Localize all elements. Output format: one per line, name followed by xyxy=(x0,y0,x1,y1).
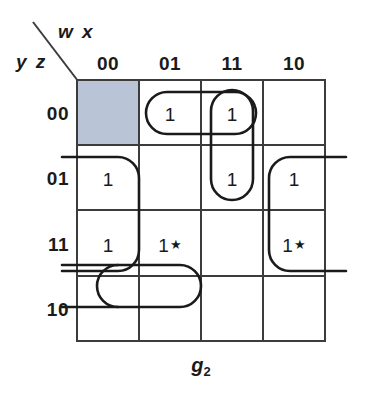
axis-label-top-variables: w x xyxy=(58,22,95,41)
column-header-00: 00 xyxy=(77,54,139,73)
function-label-subscript: 2 xyxy=(203,364,210,379)
cell-r00c01: 1 xyxy=(139,105,201,124)
column-header-11: 11 xyxy=(201,54,263,73)
cell-r01c00: 1 xyxy=(77,170,139,189)
row-header-00: 00 xyxy=(29,104,69,123)
cell-r01c10: 1 xyxy=(263,170,325,189)
star-marker-r11c01: ★ xyxy=(170,237,182,252)
cell-r11c10-value: 1 xyxy=(282,235,293,256)
column-header-01: 01 xyxy=(139,54,201,73)
star-marker-r11c10: ★ xyxy=(294,237,306,252)
function-label: g2 xyxy=(171,355,231,378)
axis-label-left-variables: y z xyxy=(16,52,47,71)
row-header-11: 11 xyxy=(29,235,69,254)
row-header-10: 10 xyxy=(29,300,69,319)
cell-r11c01: 1★ xyxy=(139,236,201,255)
function-label-name: g xyxy=(191,354,203,376)
karnaugh-map-figure: w x y z 00 01 11 10 00 01 11 10 1 1 1 1 … xyxy=(0,0,368,395)
cell-r11c01-value: 1 xyxy=(158,235,169,256)
cell-r11c00: 1 xyxy=(77,236,139,255)
cell-r00c11: 1 xyxy=(201,105,263,124)
shaded-cell-r00c00 xyxy=(77,80,139,145)
row-header-01: 01 xyxy=(29,169,69,188)
column-header-10: 10 xyxy=(263,54,325,73)
cell-r01c11: 1 xyxy=(201,170,263,189)
cell-r11c10: 1★ xyxy=(263,236,325,255)
